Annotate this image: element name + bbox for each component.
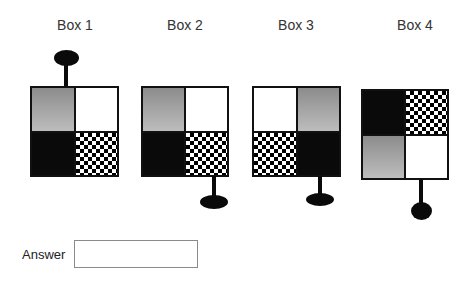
- box-2-label: Box 2: [167, 17, 203, 33]
- box-2-grid: [141, 86, 229, 177]
- quadrant-white: [406, 136, 447, 179]
- box-4-label: Box 4: [397, 17, 433, 33]
- answer-input[interactable]: [74, 240, 198, 268]
- box-1-grid: [30, 86, 119, 177]
- quadrant-gray: [32, 88, 74, 131]
- quadrant-gray: [298, 88, 340, 131]
- quadrant-checker: [186, 133, 227, 176]
- quadrant-black: [298, 133, 340, 176]
- quadrant-black: [363, 91, 404, 134]
- quadrant-checker: [406, 91, 447, 134]
- quadrant-white: [186, 88, 227, 131]
- quadrant-checker: [76, 133, 118, 176]
- box-1-label: Box 1: [57, 17, 93, 33]
- quadrant-black: [143, 133, 184, 176]
- pin-head-icon: [306, 193, 334, 206]
- quadrant-checker: [254, 133, 296, 176]
- pin-stem-icon: [64, 62, 68, 87]
- quadrant-gray: [363, 136, 404, 179]
- pin-head-icon: [411, 202, 432, 220]
- quadrant-white: [76, 88, 118, 131]
- box-3-label: Box 3: [278, 17, 314, 33]
- quadrant-white: [254, 88, 296, 131]
- quadrant-gray: [143, 88, 184, 131]
- box-3-grid: [252, 86, 341, 177]
- quadrant-black: [32, 133, 74, 176]
- answer-label: Answer: [22, 247, 65, 262]
- pin-head-icon: [200, 195, 228, 209]
- box-4-grid: [361, 89, 449, 180]
